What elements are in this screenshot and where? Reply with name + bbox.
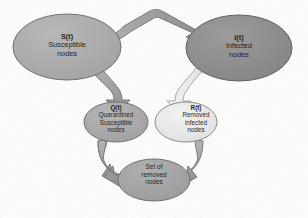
node-set-of-removed: [118, 159, 190, 201]
node-quarantined: [84, 102, 148, 142]
node-removed-infected: [155, 102, 217, 142]
node-infected: [186, 15, 292, 81]
diagram-canvas: S(t) Susceptible nodes I(t) Infected nod…: [0, 0, 308, 218]
node-susceptible: [13, 14, 121, 80]
diagram-graphics: [0, 0, 308, 218]
